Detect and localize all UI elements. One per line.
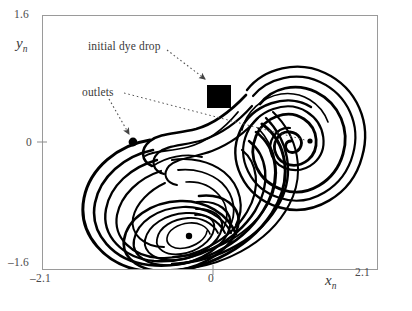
x-axis-min-label: –2.1 [30, 272, 51, 284]
x-axis-zero-label: 0 [208, 272, 214, 284]
y-axis-title-subscript: n [23, 44, 28, 54]
x-axis-title-symbol: x [325, 272, 332, 288]
y-axis-zero-label: 0 [26, 136, 32, 148]
x-axis-title: xn [325, 272, 336, 291]
x-axis-max-label: 2.1 [355, 266, 370, 278]
annotation-label-outlets: outlets [82, 86, 114, 98]
y-axis-title: yn [16, 35, 27, 54]
plot-frame [42, 15, 378, 270]
y-axis-title-symbol: y [16, 35, 23, 51]
x-axis-title-subscript: n [332, 281, 337, 291]
figure-root: 1.6 0 –1.6 –2.1 0 2.1 yn xn initial dye … [0, 0, 412, 311]
annotation-label-initial-dye-drop: initial dye drop [88, 40, 161, 52]
y-axis-max-label: 1.6 [14, 8, 29, 20]
y-axis-min-label: –1.6 [8, 256, 29, 268]
